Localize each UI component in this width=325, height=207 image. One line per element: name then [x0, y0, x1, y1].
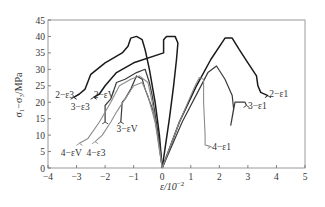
- x-tick-label: 3: [246, 172, 251, 182]
- curve-end-marker: [102, 122, 108, 124]
- x-tick-label: −1: [129, 172, 139, 182]
- y-axis-ticks: 051015202530354045: [36, 16, 52, 174]
- curve-label: 2−ε3: [55, 90, 74, 100]
- curve-label: 3−ε3: [71, 102, 90, 112]
- y-tick-label: 25: [36, 81, 46, 91]
- x-tick-label: −2: [100, 172, 110, 182]
- y-tick-label: 20: [36, 98, 46, 108]
- plot-frame: [48, 20, 305, 168]
- y-tick-label: 30: [36, 65, 46, 75]
- curve-label: 2−εV: [94, 90, 115, 100]
- y-tick-label: 15: [36, 114, 46, 124]
- curve-end-marker: [92, 142, 98, 144]
- x-tick-label: 5: [303, 172, 308, 182]
- y-tick-label: 10: [36, 131, 46, 141]
- x-tick-label: −4: [43, 172, 53, 182]
- y-tick-label: 35: [36, 48, 46, 58]
- curve-2-v: [94, 36, 178, 168]
- stress-strain-chart: −4−3−2−1012345 051015202530354045 2−ε12−…: [0, 0, 325, 207]
- x-tick-label: 4: [274, 172, 279, 182]
- curve-label: 4−ε1: [212, 142, 231, 152]
- x-axis-title: ε/10−2: [160, 180, 185, 192]
- curve-label: 4−ε3: [87, 148, 106, 158]
- y-tick-label: 45: [36, 16, 46, 26]
- y-tick-label: 0: [40, 164, 45, 174]
- curve-label: 3−ε1: [248, 101, 267, 111]
- plot-border: [48, 20, 305, 168]
- y-tick-label: 40: [36, 32, 46, 42]
- x-tick-label: 2: [217, 172, 222, 182]
- y-axis-title: σ₁−σ₃/MPa: [13, 72, 24, 118]
- x-tick-label: 1: [188, 172, 193, 182]
- x-tick-label: −3: [72, 172, 82, 182]
- y-tick-label: 5: [40, 147, 45, 157]
- curve-label: 4−εV: [61, 148, 82, 158]
- curve-end-marker: [76, 143, 82, 145]
- curve-label: 2−ε1: [269, 89, 288, 99]
- curve-label: 3−εV: [117, 124, 138, 134]
